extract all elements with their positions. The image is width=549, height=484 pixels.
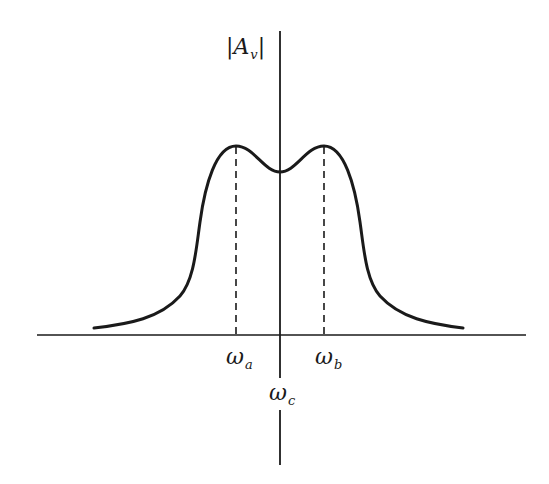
omega-a-label: ωa (226, 346, 253, 368)
omega-a-subscript: a (245, 357, 253, 372)
omega-c-subscript: c (288, 393, 295, 408)
y-label-subscript: v (250, 47, 257, 62)
figure-graphics (0, 0, 549, 484)
omega-b-label: ωb (315, 346, 342, 368)
y-label-symbol: A (233, 34, 249, 59)
y-label-right-bar: | (258, 34, 265, 59)
omega-c-symbol: ω (269, 380, 287, 405)
bandpass-response-figure: |Av| ωa ωb ωc (0, 0, 549, 484)
response-curve (94, 146, 463, 328)
omega-b-subscript: b (334, 357, 342, 372)
omega-a-symbol: ω (226, 344, 244, 369)
omega-c-label: ωc (269, 382, 295, 404)
omega-b-symbol: ω (315, 344, 333, 369)
y-axis-label: |Av| (226, 36, 265, 58)
